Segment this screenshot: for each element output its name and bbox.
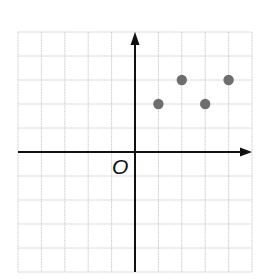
x-axis-arrow-icon	[240, 148, 252, 157]
data-point	[153, 99, 163, 109]
y-axis-arrow-icon	[131, 32, 140, 45]
data-point	[223, 75, 233, 85]
axes	[18, 32, 252, 272]
origin-label: O	[112, 156, 128, 177]
coordinate-plane	[0, 0, 261, 279]
data-point	[200, 99, 210, 109]
data-point	[177, 75, 187, 85]
